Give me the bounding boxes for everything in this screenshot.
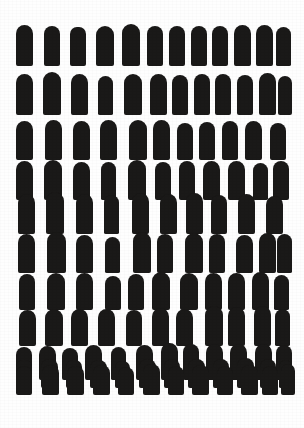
- bullet-shape: [47, 232, 66, 273]
- bullet-shape: [98, 309, 115, 346]
- bullet-shape: [254, 306, 271, 346]
- bullet-shape: [262, 366, 278, 395]
- bullet-shape: [76, 194, 93, 234]
- bullet-shape: [186, 193, 203, 234]
- bullet-shape: [45, 120, 62, 160]
- bullet-shape: [212, 26, 228, 66]
- bullet-shape: [238, 194, 255, 234]
- bullet-shape: [209, 234, 225, 273]
- bullet-shape: [147, 26, 163, 66]
- bullet-shape: [180, 273, 198, 310]
- bullet-shape: [199, 122, 215, 160]
- bullet-shape: [176, 309, 193, 346]
- bullet-shape: [266, 196, 283, 234]
- bullet-shape: [44, 26, 60, 66]
- bullet-shape: [157, 234, 173, 273]
- bullet-shape: [16, 74, 33, 115]
- bullet-shape: [122, 24, 140, 66]
- bullet-shape: [16, 121, 33, 160]
- bullet-shape: [98, 76, 113, 115]
- bullet-shape: [273, 161, 289, 200]
- bullet-shape: [76, 235, 93, 273]
- bullet-shape: [228, 273, 245, 310]
- bullet-shape: [47, 273, 65, 310]
- bullet-shape: [228, 307, 245, 346]
- bullet-shape: [205, 273, 222, 310]
- bullet-shape: [73, 121, 90, 160]
- bullet-shape: [150, 74, 167, 115]
- bullet-shape: [169, 26, 185, 66]
- bullet-shape: [67, 366, 84, 395]
- bullet-shape: [152, 308, 169, 346]
- bullet-shape: [105, 237, 120, 273]
- bullet-shape: [105, 276, 121, 310]
- bullet-shape: [276, 27, 291, 66]
- bullet-shape: [192, 365, 209, 395]
- bullet-shape: [118, 367, 134, 395]
- bullet-shape: [217, 366, 233, 395]
- bullet-shape: [236, 235, 253, 273]
- bullet-shape: [194, 74, 210, 115]
- bullet-shape: [177, 123, 193, 160]
- bullet-shape: [234, 25, 251, 66]
- bullet-shape: [252, 272, 269, 310]
- bullet-shape: [274, 275, 289, 310]
- bullet-shape: [241, 365, 258, 395]
- bullet-shape: [19, 310, 36, 346]
- bullet-shape: [143, 364, 160, 395]
- bullet-shape: [237, 75, 253, 115]
- bullet-shape: [245, 121, 262, 160]
- bullet-shape: [71, 74, 88, 115]
- bullet-shape: [133, 232, 151, 273]
- bullet-shape: [19, 274, 35, 310]
- bullet-shape: [76, 273, 93, 310]
- bullet-shape: [185, 233, 203, 273]
- bullet-shape: [18, 194, 35, 234]
- bullet-shape: [42, 365, 59, 395]
- bullet-shape: [277, 234, 292, 273]
- bullet-shape: [71, 309, 88, 346]
- artwork-canvas: [0, 0, 304, 428]
- bullet-shape: [104, 195, 119, 234]
- bullet-shape: [259, 73, 276, 115]
- bullet-shape: [16, 25, 33, 66]
- bullet-shape: [153, 120, 170, 160]
- bullet-shape: [205, 306, 223, 346]
- bullet-shape: [128, 274, 144, 310]
- bullet-shape: [253, 163, 268, 200]
- bullet-shape: [96, 26, 114, 66]
- bullet-shape: [172, 75, 188, 115]
- bullet-shape: [124, 74, 142, 115]
- bullet-shape: [46, 192, 64, 234]
- bullet-shape: [93, 365, 110, 395]
- bullet-shape: [129, 120, 147, 160]
- bullet-shape: [275, 309, 290, 346]
- bullet-shape: [191, 26, 207, 66]
- bullet-shape: [18, 234, 35, 273]
- bullet-shape: [168, 366, 184, 395]
- bullet-shape: [256, 25, 273, 66]
- bullet-shape: [45, 309, 63, 346]
- bullet-shape: [132, 193, 149, 234]
- bullet-shape: [43, 72, 61, 115]
- bullet-shape: [160, 194, 177, 234]
- bullet-shape: [259, 233, 276, 273]
- bullet-shape: [16, 366, 32, 395]
- bullet-shape: [278, 76, 292, 115]
- bullet-shape: [270, 123, 286, 160]
- bullet-shape: [152, 272, 170, 310]
- bullet-shape: [215, 74, 231, 115]
- bullet-shape: [211, 195, 227, 234]
- bullet-shape: [281, 364, 295, 395]
- bullet-shape: [222, 121, 238, 160]
- bullet-shape-grid: [0, 0, 304, 428]
- bullet-shape: [126, 310, 142, 346]
- bullet-shape: [100, 120, 117, 160]
- bullet-shape: [70, 27, 86, 66]
